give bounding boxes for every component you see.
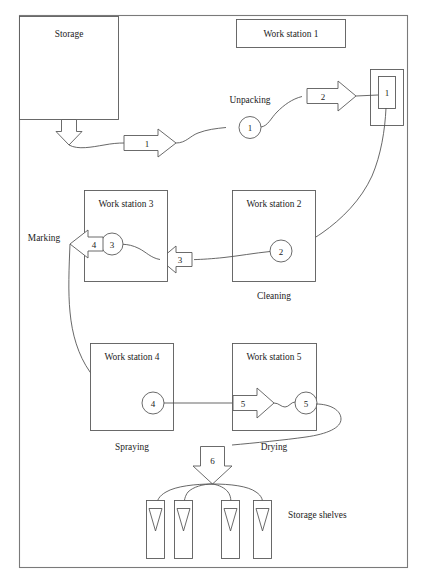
arrow-6-label: 6 [210, 456, 215, 466]
work-station-2-label: Work station 2 [247, 199, 302, 209]
operation-node-2-label: 2 [279, 247, 284, 257]
spraying-label: Spraying [115, 442, 149, 452]
arrow-4-label: 4 [92, 240, 97, 250]
flow-storage-to-arrow1 [69, 143, 124, 148]
work-station-5-label: Work station 5 [247, 352, 302, 362]
operation-node-1-label: 1 [248, 123, 253, 133]
operation-node-5-label: 5 [304, 399, 309, 409]
storage-shelves-label: Storage shelves [288, 510, 347, 520]
operation-node-3-label: 3 [110, 240, 115, 250]
arrow-5-label: 5 [241, 399, 246, 409]
work-station-4-label: Work station 4 [105, 352, 160, 362]
arrow-1-label: 1 [145, 139, 150, 149]
arrow-1[interactable] [124, 129, 176, 157]
flow-arrow1-to-op1 [176, 128, 226, 144]
work-station-1-label: Work station 1 [264, 29, 319, 39]
unpacking-label: Unpacking [229, 95, 270, 105]
marking-label: Marking [28, 233, 61, 243]
drying-label: Drying [261, 442, 288, 452]
work-station-3-label: Work station 3 [99, 199, 154, 209]
storage-label: Storage [55, 29, 84, 39]
operation-node-4-label: 4 [151, 399, 156, 409]
cleaning-label: Cleaning [257, 291, 291, 301]
machine-1-label: 1 [385, 88, 390, 98]
arrow-3-label: 3 [178, 255, 183, 265]
arrow-2-label: 2 [321, 92, 326, 102]
arrow-2[interactable] [307, 81, 356, 111]
diagram-canvas: Storage Work station 1 1 1 Unpacking 1 2… [0, 0, 427, 588]
arrow-storage-out[interactable] [56, 120, 82, 146]
